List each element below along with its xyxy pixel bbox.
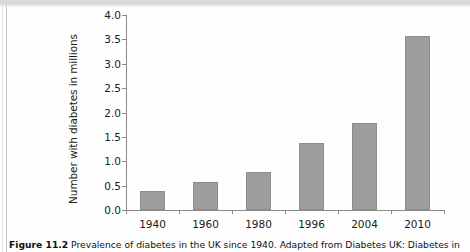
x-category-label: 1960 — [192, 218, 219, 230]
x-tick-mark — [391, 210, 392, 214]
y-tick-label: 4.0 — [104, 9, 121, 21]
plot-area: 0.00.51.01.52.02.53.03.54.0 194019601980… — [126, 15, 444, 211]
x-tick-mark — [285, 210, 286, 214]
y-tick-label: 0.0 — [104, 204, 121, 216]
figure-caption-text: Prevalence of diabetes in the UK since 1… — [71, 239, 460, 250]
y-tick-mark — [122, 15, 126, 16]
y-tick-label: 3.0 — [104, 58, 121, 70]
y-tick-label: 2.5 — [104, 82, 121, 94]
x-category-label: 2004 — [351, 218, 378, 230]
page-canvas: Number with diabetes in millions 0.00.51… — [0, 0, 470, 252]
y-tick-label: 3.5 — [104, 33, 121, 45]
y-tick-mark — [122, 88, 126, 89]
bar-1996 — [299, 143, 323, 210]
y-tick-label: 1.5 — [104, 131, 121, 143]
y-tick-mark — [122, 186, 126, 187]
x-category-label: 1940 — [139, 218, 166, 230]
bar-1940 — [140, 191, 164, 211]
figure-caption: Figure 11.2 Prevalence of diabetes in th… — [9, 238, 464, 251]
x-tick-mark — [126, 210, 127, 214]
y-tick-mark — [122, 39, 126, 40]
bar-1980 — [246, 172, 270, 210]
figure-bar-chart: Number with diabetes in millions 0.00.51… — [0, 7, 470, 228]
y-tick-label: 1.0 — [104, 155, 121, 167]
y-tick-mark — [122, 161, 126, 162]
y-tick-mark — [122, 137, 126, 138]
y-axis-line — [126, 15, 127, 211]
x-tick-mark — [232, 210, 233, 214]
figure-caption-label: Figure 11.2 — [9, 239, 68, 250]
x-category-label: 1980 — [245, 218, 272, 230]
bar-2010 — [405, 36, 429, 210]
x-category-label: 2010 — [404, 218, 431, 230]
y-tick-mark — [122, 113, 126, 114]
y-tick-label: 2.0 — [104, 107, 121, 119]
x-tick-mark — [338, 210, 339, 214]
y-tick-label: 0.5 — [104, 180, 121, 192]
y-axis-title: Number with diabetes in millions — [67, 21, 83, 217]
y-tick-mark — [122, 64, 126, 65]
x-category-label: 1996 — [298, 218, 325, 230]
x-tick-mark — [179, 210, 180, 214]
x-tick-mark — [444, 210, 445, 214]
bar-1960 — [193, 182, 217, 210]
bar-2004 — [352, 123, 376, 210]
